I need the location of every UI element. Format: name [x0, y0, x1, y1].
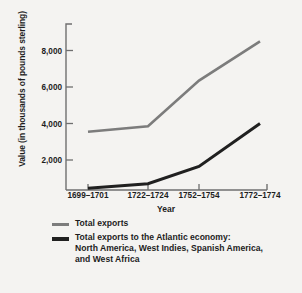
- y-axis-ticks: [66, 51, 73, 161]
- legend-item-atlantic-economy: Total exports to the Atlantic economy: N…: [52, 232, 298, 265]
- chart-figure: Value (in thousands of pounds sterling) …: [0, 0, 302, 293]
- legend-label-total-exports-line-1: Total exports: [75, 218, 128, 229]
- legend-swatch-total-exports-icon: [52, 223, 69, 226]
- legend-swatch-atlantic-economy-icon: [52, 237, 69, 241]
- legend-label-total-exports: Total exports: [75, 218, 128, 229]
- series-line-total-exports: [88, 41, 260, 131]
- legend-item-total-exports: Total exports: [52, 218, 298, 229]
- legend-label-atlantic-economy-line-2: North America, West Indies, Spanish Amer…: [75, 243, 263, 254]
- chart-legend: Total exports Total exports to the Atlan…: [52, 218, 298, 268]
- legend-label-atlantic-economy: Total exports to the Atlantic economy: N…: [75, 232, 263, 265]
- legend-label-atlantic-economy-line-1: Total exports to the Atlantic economy:: [75, 232, 263, 243]
- x-axis-title: Year: [66, 204, 266, 214]
- x-tick-label-1772-1774: 1772–1774: [223, 191, 297, 200]
- legend-label-atlantic-economy-line-3: and West Africa: [75, 254, 263, 265]
- series-line-atlantic-economy: [88, 124, 260, 189]
- y-axis-line: [66, 24, 72, 190]
